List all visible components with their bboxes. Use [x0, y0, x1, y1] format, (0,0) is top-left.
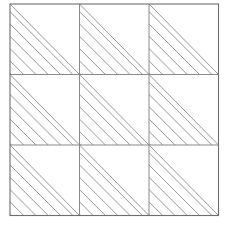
hatched-grid-diagram — [0, 0, 230, 225]
figure-canvas — [0, 0, 230, 225]
background-rect — [0, 0, 230, 225]
